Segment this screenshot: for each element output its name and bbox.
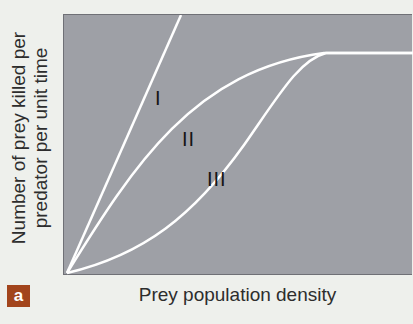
curve-iii bbox=[67, 53, 413, 273]
curve-i bbox=[67, 15, 181, 273]
panel-tag: a bbox=[7, 285, 30, 307]
curve-label-iii: III bbox=[207, 168, 227, 191]
y-axis-label: Number of prey killed per predator per u… bbox=[0, 0, 60, 276]
x-axis-label: Prey population density bbox=[63, 284, 412, 306]
y-axis-label-line2: predator per unit time bbox=[30, 32, 52, 244]
y-axis-label-line1: Number of prey killed per bbox=[8, 32, 30, 244]
curve-ii bbox=[67, 53, 413, 273]
curve-label-ii: II bbox=[182, 128, 195, 151]
curve-label-i: I bbox=[155, 87, 162, 110]
plot-area: I II III bbox=[63, 14, 412, 275]
curves-svg bbox=[64, 15, 413, 276]
